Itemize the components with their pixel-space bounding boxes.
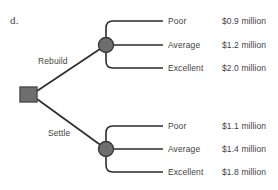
chance-node-settle[interactable]: [99, 142, 114, 157]
outcome-value-rebuild-poor: $0.9 million: [222, 16, 266, 26]
outcome-name-rebuild-excellent: Excellent: [168, 63, 203, 73]
edge-decision-to-rebuild-node: [37, 45, 106, 91]
outcome-name-rebuild-average: Average: [168, 40, 200, 50]
outcome-value-settle-average: $1.4 million: [222, 144, 266, 154]
branch-label-rebuild: Rebuild: [38, 56, 68, 66]
chance-node-rebuild[interactable]: [99, 38, 114, 53]
decision-square-node[interactable]: [20, 87, 37, 102]
edge-rebuild-poor: [106, 21, 163, 45]
outcome-name-settle-poor: Poor: [168, 121, 186, 131]
edge-decision-to-settle-node: [37, 99, 106, 149]
outcome-name-settle-excellent: Excellent: [168, 167, 203, 177]
outcome-name-settle-average: Average: [168, 144, 200, 154]
outcome-value-settle-poor: $1.1 million: [222, 121, 266, 131]
outcome-value-rebuild-excellent: $2.0 million: [222, 63, 266, 73]
outcome-value-rebuild-average: $1.2 million: [222, 40, 266, 50]
edge-settle-poor: [106, 126, 163, 149]
branch-label-settle: Settle: [48, 128, 70, 138]
outcome-name-rebuild-poor: Poor: [168, 16, 186, 26]
edge-rebuild-excellent: [106, 45, 163, 68]
outcome-value-settle-excellent: $1.8 million: [222, 167, 266, 177]
edge-settle-excellent: [106, 149, 163, 172]
decision-tree-diagram: [0, 0, 278, 190]
